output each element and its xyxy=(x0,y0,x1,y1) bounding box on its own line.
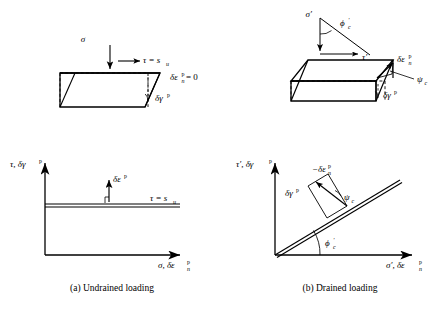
drained-plot-x-label: σ′, δε xyxy=(386,260,405,270)
undrained-plot-y-label-sup: p xyxy=(39,158,42,164)
drained-plot-x-label-sub: n xyxy=(419,266,422,272)
undrained-plot-line-label-sub: u xyxy=(173,199,176,205)
undrained-shear-box: σ τ = s u δε n p = 0 δγ p xyxy=(60,34,198,107)
undrained-plot-vector-label-group: δε p xyxy=(113,173,127,184)
undrained-normal-strain-sup: p xyxy=(182,71,185,77)
drained-normal-strain-sub: n xyxy=(409,60,412,66)
drained-phi-angle-arc xyxy=(320,31,332,34)
undrained-tau-label-sub: u xyxy=(166,61,169,67)
drained-plot-psi-sub: c xyxy=(352,198,355,204)
undrained-plot-vector-label-sup: p xyxy=(124,173,127,179)
drained-strain-increment-vector xyxy=(316,182,347,206)
drained-sigma-prime-label: σ′ xyxy=(306,9,313,19)
drained-plot-neg-normal-strain-group: −δε n p xyxy=(312,163,331,176)
drained-psi-label-group: ψ c xyxy=(417,74,428,86)
undrained-plot-x-label-sup: p xyxy=(187,259,190,265)
drained-phi-sub: c xyxy=(348,24,351,30)
undrained-shear-strain-label-group: δγ p xyxy=(155,92,170,103)
figure-canvas: σ τ = s u δε n p = 0 δγ p xyxy=(0,0,439,310)
drained-stress-triangle xyxy=(320,18,370,55)
drained-box-hidden-dashed xyxy=(291,81,385,101)
drained-plot-psi-label: ψ xyxy=(344,192,350,202)
drained-plot-psi-label-group: ψ c xyxy=(344,192,355,204)
undrained-normal-strain-label-group: δε n p = 0 xyxy=(170,71,198,84)
undrained-strain-increment-vector xyxy=(105,180,109,203)
undrained-sigma-label: σ xyxy=(81,34,86,44)
undrained-plot-y-label-group: τ, δγ p xyxy=(10,158,42,169)
drained-plot-phi-label-group: ϕ ′ c xyxy=(325,237,336,250)
undrained-yield-locus xyxy=(45,204,180,207)
drained-plot-x-label-group: σ′, δε n p xyxy=(386,259,422,272)
drained-phi-label-group: ϕ ′ c xyxy=(340,17,351,30)
undrained-box-sheared-outline xyxy=(60,73,160,107)
drained-plot-x-label-sup: p xyxy=(419,259,422,265)
undrained-tau-label: τ = s xyxy=(143,55,161,65)
drained-plot-shear-strain-group: δγ p xyxy=(285,187,299,198)
drained-plot-y-label-sup: p xyxy=(269,158,272,164)
drained-plot-neg-normal-strain-label: −δε xyxy=(312,164,326,174)
drained-plot-neg-normal-strain-sub: n xyxy=(328,170,331,176)
undrained-normal-strain-label: δε xyxy=(170,72,178,82)
drained-shear-strain-label: δγ xyxy=(383,90,391,100)
drained-plot-neg-normal-strain-sup: p xyxy=(328,163,331,169)
undrained-shear-strain-sup: p xyxy=(167,92,170,98)
drained-psi-label: ψ xyxy=(417,74,423,84)
drained-normal-strain-sup: p xyxy=(409,53,412,59)
drained-plot-phi-prime: ′ xyxy=(334,237,336,243)
drained-shear-strain-sup: p xyxy=(394,89,397,95)
undrained-plot-line-label: τ = s xyxy=(150,193,168,203)
drained-plot-phi-sub: c xyxy=(333,244,336,250)
undrained-plot-y-label: τ, δγ xyxy=(10,159,26,169)
drained-shear-strain-label-group: δγ p xyxy=(383,89,397,100)
undrained-plot-x-label-group: σ, δε n p xyxy=(158,259,190,272)
drained-strain-increment-box xyxy=(308,174,347,218)
caption-drained: (b) Drained loading xyxy=(303,283,378,294)
undrained-plot-x-label-sub: n xyxy=(187,266,190,272)
drained-plot-y-label: τ′, δγ xyxy=(236,159,254,169)
drained-normal-strain-label: δε xyxy=(397,54,405,64)
drained-plot-shear-strain-label: δγ xyxy=(285,188,293,198)
drained-plot-phi-label: ϕ xyxy=(325,238,330,248)
undrained-normal-strain-value: = 0 xyxy=(186,72,198,82)
drained-shear-box: σ′ ϕ ′ c τ′ δε n p ψ c δγ p xyxy=(291,9,428,101)
figure-root: σ τ = s u δε n p = 0 δγ p xyxy=(0,0,439,310)
undrained-shear-strain-label: δγ xyxy=(155,93,163,103)
undrained-plot-line-label-group: τ = s u xyxy=(150,193,176,205)
drained-dilation-vector xyxy=(377,63,393,78)
undrained-plot-x-label: σ, δε xyxy=(158,260,175,270)
drained-normal-strain-label-group: δε n p xyxy=(397,53,412,66)
drained-phi-label: ϕ xyxy=(340,18,345,28)
undrained-box-shear-edges xyxy=(60,73,160,107)
undrained-plot: τ, δγ p σ, δε n p τ = s u δε p xyxy=(10,158,190,272)
undrained-plot-vector-label: δε xyxy=(113,174,121,184)
drained-box-front-face xyxy=(291,81,376,101)
undrained-normal-strain-sub: n xyxy=(182,78,185,84)
drained-plot-shear-strain-sup: p xyxy=(296,187,299,193)
drained-plot-y-label-group: τ′, δγ p xyxy=(236,158,272,169)
undrained-tau-label-group: τ = s u xyxy=(143,55,169,67)
drained-phi-prime: ′ xyxy=(349,17,351,23)
drained-plot: τ′, δγ p σ′, δε n p ϕ ′ c −δε n p δγ p xyxy=(236,158,422,272)
caption-undrained: (a) Undrained loading xyxy=(70,283,154,294)
drained-psi-sub: c xyxy=(425,80,428,86)
